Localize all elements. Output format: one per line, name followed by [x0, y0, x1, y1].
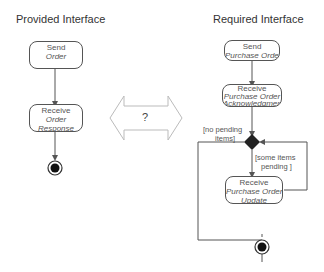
node-label: Purchase Order — [225, 51, 279, 60]
node-label: Receive — [30, 106, 82, 115]
final-node-icon — [48, 161, 62, 175]
node-label: Acknowledgment — [223, 100, 281, 107]
required-interface-title: Required Interface — [213, 13, 304, 25]
node-label: Order — [30, 115, 82, 124]
activity-send-order: Send Order — [29, 41, 83, 69]
guard-no-pending: [no pending items] — [203, 125, 242, 143]
node-label: Response — [30, 124, 82, 132]
node-label: Send — [30, 43, 82, 52]
guard-some-pending: [some items pending ] — [255, 153, 295, 171]
node-label: Purchase Order — [226, 187, 282, 196]
activity-receive-po-update: Receive Purchase Order Update — [225, 176, 283, 204]
node-label: Update — [226, 196, 282, 204]
guard-label: [no pending — [203, 125, 242, 134]
node-label: Order — [30, 52, 82, 61]
final-node-icon — [255, 240, 269, 254]
node-label: Send — [225, 42, 279, 51]
node-label: Receive — [226, 178, 282, 187]
guard-label: items] — [203, 134, 242, 143]
mapping-question-label: ? — [142, 111, 148, 123]
activity-send-purchase-order: Send Purchase Order — [224, 40, 280, 61]
decision-diamond-icon — [244, 134, 260, 150]
activity-receive-po-acknowledgment: Receive Purchase Order Acknowledgment — [222, 84, 282, 107]
guard-label: [some items — [255, 153, 295, 162]
provided-interface-title: Provided Interface — [16, 13, 105, 25]
guard-label: pending ] — [255, 162, 295, 171]
activity-receive-order-response: Receive Order Response — [29, 104, 83, 132]
